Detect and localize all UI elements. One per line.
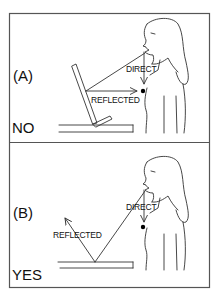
panel-b-id-label: (B) [13, 205, 33, 220]
panel-b-reflected-label: REFLECTED [53, 231, 102, 240]
panel-a-direct-label: DIRECT [126, 65, 156, 74]
outer-frame-border [10, 14, 210, 288]
person-figure-icon [143, 18, 188, 133]
desk-icon [59, 125, 133, 132]
frame [10, 14, 210, 288]
panel-b-drawing [58, 156, 188, 270]
panel-a-id-label: (A) [13, 68, 33, 83]
panel-a-verdict-label: NO [12, 120, 35, 135]
diagram-drawing [0, 0, 217, 294]
acoustic-reflection-diagram: (A) NO DIRECT REFLECTED (B) YES DIRECT R… [0, 0, 217, 294]
microphone-dot-icon [141, 225, 145, 229]
microphone-dot-icon [141, 89, 145, 93]
panel-a-drawing [59, 18, 188, 133]
reflected-sound-arrow [65, 218, 95, 262]
person-figure-icon [143, 156, 188, 270]
panel-a-reflected-label: REFLECTED [91, 96, 140, 105]
panel-b-verdict-label: YES [12, 267, 42, 282]
panel-b-direct-label: DIRECT [126, 203, 156, 212]
desk-icon [58, 262, 133, 268]
